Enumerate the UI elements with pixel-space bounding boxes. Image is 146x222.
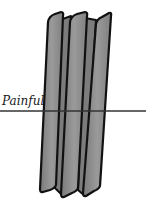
folded-strip-diagram: Painful (0, 0, 146, 222)
folded-strips-illustration (0, 0, 146, 222)
painful-label: Painful (2, 94, 44, 108)
